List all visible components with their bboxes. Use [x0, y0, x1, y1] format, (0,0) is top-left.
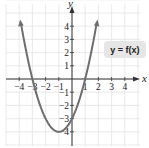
plot-canvas: xy−4−3−2−11234−4−3−2−11234 — [0, 0, 149, 148]
x-tick-label: 3 — [109, 82, 114, 92]
y-axis-label: y — [67, 0, 73, 9]
graph-figure: xy−4−3−2−11234−4−3−2−11234 y = f(x) — [0, 0, 149, 148]
function-label: y = f(x) — [104, 41, 146, 58]
y-tick-label: 2 — [64, 48, 69, 58]
y-tick-label: −2 — [59, 101, 69, 111]
x-axis-label: x — [141, 72, 147, 84]
y-tick-label: 4 — [64, 22, 69, 32]
x-tick-label: 2 — [96, 82, 101, 92]
x-tick-label: −4 — [14, 82, 24, 92]
x-tick-label: 4 — [122, 82, 127, 92]
y-tick-label: −3 — [59, 114, 69, 124]
y-tick-label: 3 — [64, 35, 69, 45]
x-axis-arrow-icon — [133, 77, 140, 82]
x-tick-label: −2 — [41, 82, 51, 92]
y-tick-label: −1 — [59, 88, 69, 98]
y-tick-label: 1 — [64, 61, 69, 71]
